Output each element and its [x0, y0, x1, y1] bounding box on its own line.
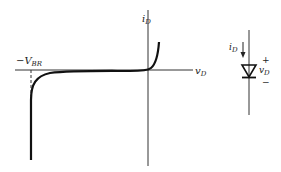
iv-curve	[31, 42, 159, 160]
diode-current-label: iD	[229, 42, 238, 54]
diode-plus-sign: +	[262, 55, 270, 65]
x-axis-label: vD	[195, 65, 207, 78]
breakdown-voltage-label: −VBR	[16, 55, 43, 68]
diode-minus-sign: −	[262, 77, 270, 87]
y-axis-label: iD	[142, 13, 151, 26]
current-arrow-icon	[241, 52, 246, 58]
diode-iv-diagram: iD vD −VBR iD + vD −	[0, 0, 281, 172]
diode-symbol	[241, 30, 257, 115]
diode-voltage-label: vD	[259, 65, 270, 77]
